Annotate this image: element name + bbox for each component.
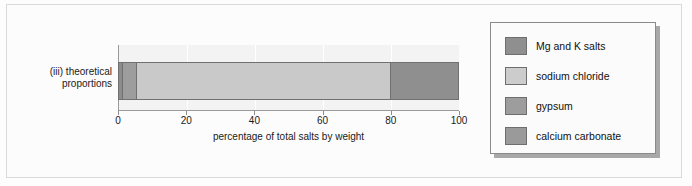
legend-label-calcium-carbonate: calcium carbonate (536, 130, 621, 142)
x-axis-title: percentage of total salts by weight (118, 131, 459, 142)
tick-label-80: 80 (385, 115, 396, 126)
legend-label-gypsum: gypsum (536, 100, 573, 112)
legend-label-mg-and-k-salts: Mg and K salts (536, 40, 605, 52)
legend-item-gypsum: gypsum (505, 92, 655, 120)
tick-label-40: 40 (249, 115, 260, 126)
legend-item-sodium-chloride: sodium chloride (505, 62, 655, 90)
bar-segment-gypsum (122, 63, 136, 99)
legend-swatch-mg-and-k-salts (505, 37, 527, 55)
legend-swatch-sodium-chloride (505, 67, 527, 85)
legend-swatch-gypsum (505, 97, 527, 115)
legend-box: Mg and K salts sodium chloride gypsum ca… (490, 22, 656, 154)
category-label-line2: proportions (14, 78, 112, 90)
tick-label-60: 60 (317, 115, 328, 126)
legend-item-mg-and-k-salts: Mg and K salts (505, 32, 655, 60)
stacked-bar-chart: (iii) theoretical proportions 0 20 40 60… (14, 12, 474, 162)
legend-swatch-calcium-carbonate (505, 127, 527, 145)
bar-segment-mg-and-k-salts (390, 63, 458, 99)
tick-label-100: 100 (451, 115, 468, 126)
legend-label-sodium-chloride: sodium chloride (536, 70, 610, 82)
tick-label-20: 20 (181, 115, 192, 126)
bar-segment-sodium-chloride (136, 63, 390, 99)
category-label-line1: (iii) theoretical (14, 66, 112, 78)
tick-label-0: 0 (115, 115, 121, 126)
bar-series-theoretical-proportions (118, 62, 459, 100)
chart-screenshot: (iii) theoretical proportions 0 20 40 60… (0, 0, 692, 186)
category-label: (iii) theoretical proportions (14, 66, 112, 90)
legend-item-calcium-carbonate: calcium carbonate (505, 122, 655, 150)
x-axis-ticks: 0 20 40 60 80 100 (118, 111, 459, 127)
